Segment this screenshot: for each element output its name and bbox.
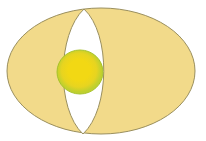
egg-diagram-svg — [0, 0, 206, 141]
figure-container — [0, 0, 206, 141]
yolk-circle — [57, 50, 103, 94]
